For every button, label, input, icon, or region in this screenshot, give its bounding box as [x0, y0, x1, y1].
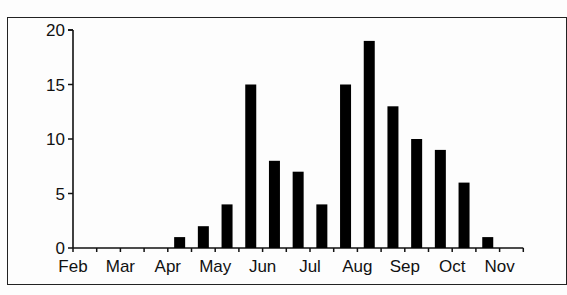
x-tick-label: Sep: [390, 257, 420, 276]
y-tick-label: 20: [46, 21, 65, 40]
bar: [459, 183, 470, 248]
x-tick-label: Apr: [155, 257, 182, 276]
x-tick-label: Jul: [299, 257, 321, 276]
bar: [269, 161, 280, 248]
y-tick-label: 0: [56, 239, 65, 258]
y-tick-label: 5: [56, 185, 65, 204]
x-tick-label: Feb: [58, 257, 87, 276]
bar: [198, 226, 209, 248]
x-tick-label: Aug: [342, 257, 372, 276]
bar: [316, 204, 327, 248]
bar: [482, 237, 493, 248]
bar: [174, 237, 185, 248]
bar: [340, 85, 351, 249]
bar: [222, 204, 233, 248]
x-tick-label: Jun: [249, 257, 276, 276]
bar: [411, 139, 422, 248]
y-tick-label: 10: [46, 130, 65, 149]
bar: [293, 172, 304, 248]
bar: [435, 150, 446, 248]
bar: [245, 85, 256, 249]
x-tick-label: May: [199, 257, 232, 276]
x-tick-label: Oct: [439, 257, 466, 276]
x-tick-label: Nov: [484, 257, 515, 276]
bar: [387, 106, 398, 248]
bar: [364, 41, 375, 248]
x-tick-label: Mar: [106, 257, 136, 276]
y-tick-label: 15: [46, 76, 65, 95]
